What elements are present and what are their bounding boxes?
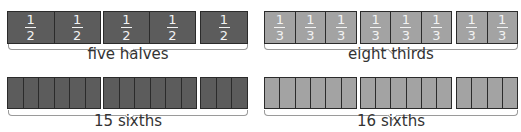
third-cell: 13	[296, 12, 327, 43]
fraction-one-third: 13	[370, 13, 381, 42]
third-cell: 13	[422, 12, 451, 43]
sixth-cell	[342, 78, 356, 108]
sixth-cell	[86, 78, 101, 108]
sixth-cell	[296, 78, 311, 108]
fraction-one-third: 13	[400, 13, 411, 42]
third-cell: 13	[391, 12, 421, 43]
sixth-cell	[182, 78, 197, 108]
sixth-cell	[217, 78, 233, 108]
bar-model-whole-1: 12 12	[7, 11, 101, 44]
sixth-cell	[311, 78, 326, 108]
bar-model-whole-2: 13 13 13	[360, 11, 452, 44]
fraction-one-third: 13	[497, 13, 508, 42]
sixth-cell	[135, 78, 151, 108]
sixth-cell	[422, 78, 437, 108]
sixth-cell	[201, 78, 217, 108]
third-cell: 13	[265, 12, 296, 43]
fraction-one-third: 13	[431, 13, 442, 42]
half-cell: 12	[104, 12, 150, 43]
fraction-one-third: 13	[336, 13, 347, 42]
third-cell: 13	[488, 12, 518, 43]
label-15-sixths: 15 sixths	[8, 112, 248, 130]
sixth-cell	[503, 78, 517, 108]
fraction-one-third: 13	[305, 13, 316, 42]
sixth-cell	[120, 78, 136, 108]
sixth-cell	[457, 78, 472, 108]
sixth-cell	[407, 78, 422, 108]
sixth-cell	[104, 78, 120, 108]
sixth-cell	[70, 78, 86, 108]
half-cell: 12	[55, 12, 101, 43]
sixth-cell	[151, 78, 167, 108]
sixth-cell	[361, 78, 376, 108]
bar-model-whole-2	[360, 77, 452, 109]
third-cell: 13	[326, 12, 356, 43]
bar-model-whole-2: 12 12	[103, 11, 196, 44]
label-16-sixths: 16 sixths	[264, 112, 518, 130]
fraction-one-half: 12	[121, 13, 132, 42]
sixth-cell	[232, 78, 247, 108]
sixth-cell	[280, 78, 295, 108]
sixth-cell	[24, 78, 40, 108]
sixth-cell	[391, 78, 406, 108]
third-cell: 13	[361, 12, 391, 43]
sixth-cell	[8, 78, 24, 108]
sixth-cell	[437, 78, 451, 108]
sixth-cell	[488, 78, 503, 108]
half-cell: 12	[150, 12, 195, 43]
fraction-one-half: 12	[72, 13, 83, 42]
bar-model-whole-2	[103, 77, 197, 109]
third-cell: 13	[457, 12, 488, 43]
sixth-cell	[326, 78, 341, 108]
bar-model-whole-3: 12	[200, 11, 248, 44]
sixth-cell	[265, 78, 280, 108]
bar-model-whole-1: 13 13 13	[264, 11, 357, 44]
bar-model-whole-3	[200, 77, 248, 109]
fraction-one-half: 12	[25, 13, 36, 42]
label-five-halves: five halves	[8, 45, 248, 63]
sixth-cell	[376, 78, 391, 108]
fraction-one-third: 13	[274, 13, 285, 42]
sixth-cell	[166, 78, 182, 108]
bar-model-whole-1	[264, 77, 357, 109]
bar-model-whole-3: 13 13	[456, 11, 518, 44]
half-cell: 12	[201, 12, 247, 43]
sixth-cell	[55, 78, 71, 108]
sixth-cell	[39, 78, 55, 108]
bar-model-whole-3	[456, 77, 518, 109]
fraction-one-half: 12	[167, 13, 178, 42]
fraction-one-half: 12	[219, 13, 230, 42]
label-eight-thirds: eight thirds	[264, 45, 518, 63]
bar-model-whole-1	[7, 77, 101, 109]
fraction-one-third: 13	[466, 13, 477, 42]
sixth-cell	[472, 78, 487, 108]
half-cell: 12	[8, 12, 55, 43]
